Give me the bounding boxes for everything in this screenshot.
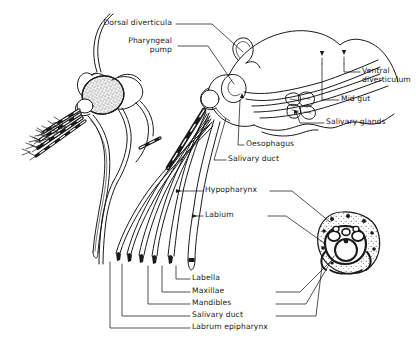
label-labrum-epipharynx: Labrum epipharynx bbox=[192, 322, 268, 331]
label-salivary-duct-lower: Salivary duct bbox=[192, 310, 243, 319]
maxillary-palps bbox=[22, 110, 85, 160]
label-mandibles: Mandibles bbox=[192, 298, 231, 307]
label-hypopharynx: Hypopharynx bbox=[205, 185, 257, 194]
label-pharyngeal-pump: Pharyngeal bbox=[92, 36, 172, 45]
leader-lines bbox=[110, 24, 360, 328]
label-labium: Labium bbox=[205, 210, 234, 219]
label-dorsal-diverticula: Dorsal diverticula bbox=[92, 18, 172, 27]
label-ventral-diverticulum-line2: diverticulum bbox=[362, 75, 411, 84]
label-labella: Labella bbox=[192, 273, 220, 282]
label-pharyngeal-pump-line2: pump bbox=[92, 45, 172, 54]
label-ventral-diverticulum: Ventral bbox=[362, 66, 390, 75]
proboscis-cross-section bbox=[318, 212, 380, 274]
figure-canvas: Dorsal diverticula Pharyngeal pump Ventr… bbox=[0, 0, 416, 341]
label-mid-gut: Mid gut bbox=[341, 94, 370, 103]
label-salivary-glands: Salivary glands bbox=[326, 117, 386, 126]
label-salivary-duct-upper: Salivary duct bbox=[228, 154, 279, 163]
label-oesophagus: Oesophagus bbox=[246, 139, 294, 148]
proboscis-lateral bbox=[88, 115, 110, 258]
label-maxillae: Maxillae bbox=[192, 286, 224, 295]
